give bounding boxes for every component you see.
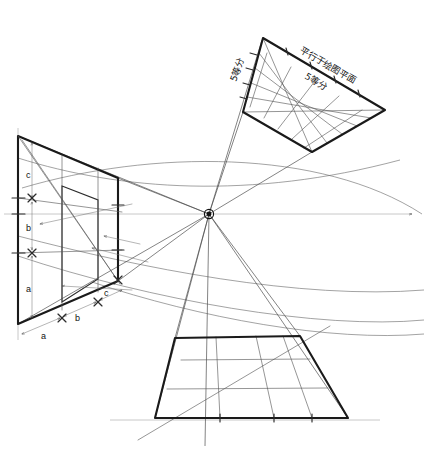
construction-arcs: [18, 158, 424, 336]
base-measuring-diagonal: [138, 326, 330, 440]
ray-center-down: [205, 214, 209, 446]
diagram-canvas: 平行于绘图平面 5等分 5等分 c b a a b c: [0, 0, 424, 454]
label-measure-a-vertical: a: [26, 284, 31, 294]
ray-to-top-grid-bottom: [209, 152, 312, 214]
ray-to-panel-bottom-right: [118, 214, 209, 281]
arc-lowest: [92, 282, 424, 336]
label-measure-a-base: a: [41, 331, 46, 341]
bottom-grid-verticals: [216, 336, 312, 418]
left-measuring-panel: [12, 136, 148, 334]
ray-to-top-grid-left: [209, 112, 243, 214]
left-panel-projectors: [40, 204, 148, 290]
label-divisions-left: 5等分: [228, 57, 246, 83]
left-panel-outline: [18, 136, 118, 324]
ray-to-base-top-right: [209, 214, 300, 336]
bottom-grid-plane: [155, 336, 348, 422]
left-panel-horizontals: [18, 198, 122, 253]
left-panel-edge-ticks: [12, 194, 36, 257]
perspective-construction-figure: 平行于绘图平面 5等分 5等分 c b a a b c: [0, 0, 424, 454]
left-panel-verticals: [62, 155, 98, 310]
label-measure-c-base: c: [104, 288, 109, 298]
label-measure-b-base: b: [75, 313, 80, 323]
arc-upper: [18, 158, 400, 186]
bottom-grid-horizontals: [167, 359, 328, 389]
label-divisions-top: 5等分: [303, 70, 329, 92]
label-measure-b-vertical: b: [26, 223, 31, 233]
label-measure-c-vertical: c: [26, 170, 31, 180]
ray-to-panel-top-right: [118, 178, 209, 214]
arc-mid: [18, 236, 424, 292]
bottom-grid-outline: [155, 336, 348, 418]
ray-to-base-bottom-right: [209, 214, 348, 418]
